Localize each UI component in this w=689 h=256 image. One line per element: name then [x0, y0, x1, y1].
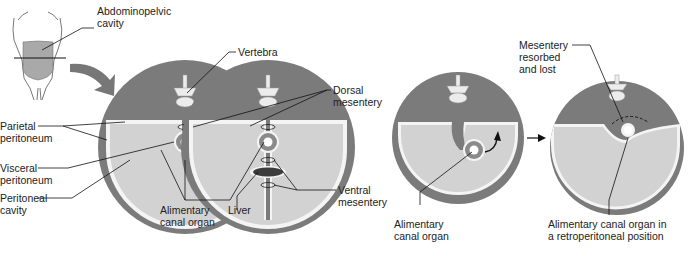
label-retroperitoneal-position: Alimentary canal organ in a retroperiton…	[548, 218, 666, 242]
label-mesentery-resorbed: Mesentery resorbed and lost	[519, 39, 568, 75]
label-alimentary-canal-organ-1: Alimentary canal organ	[160, 204, 215, 228]
label-dorsal-mesentery: Dorsal mesentery	[333, 84, 382, 108]
label-ventral-mesentery: Ventral mesentery	[338, 184, 387, 208]
label-parietal-peritoneum: Parietal peritoneum	[0, 120, 53, 144]
cross-section-3	[392, 72, 524, 204]
vertebra-icon-4	[607, 75, 627, 101]
curved-arrow-icon	[70, 64, 115, 96]
label-abdominopelvic-cavity: Abdominopelvic cavity	[97, 5, 171, 29]
cross-section-4	[550, 75, 684, 215]
label-visceral-peritoneum: Visceral peritoneum	[0, 162, 53, 186]
label-alimentary-canal-organ-2: Alimentary canal organ	[394, 218, 449, 242]
label-vertebra: Vertebra	[238, 46, 278, 58]
label-peritoneal-cavity: Peritoneal cavity	[0, 192, 47, 216]
label-liver: Liver	[228, 204, 251, 216]
transition-arrow-icon	[527, 134, 546, 142]
